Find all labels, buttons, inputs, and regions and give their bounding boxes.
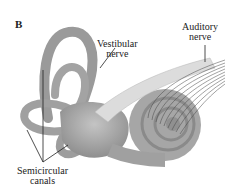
inner-ear-diagram: B Vestibular nerve Auditory nerve Semici… bbox=[0, 0, 236, 195]
label-line: nerve bbox=[182, 32, 218, 42]
semicircular-canals-label: Semicircular canals bbox=[17, 166, 68, 186]
label-line: canals bbox=[17, 176, 68, 186]
vestibular-nerve-label: Vestibular nerve bbox=[97, 39, 138, 59]
panel-label: B bbox=[15, 18, 22, 30]
auditory-nerve-label: Auditory nerve bbox=[182, 22, 218, 42]
label-line: nerve bbox=[97, 49, 138, 59]
